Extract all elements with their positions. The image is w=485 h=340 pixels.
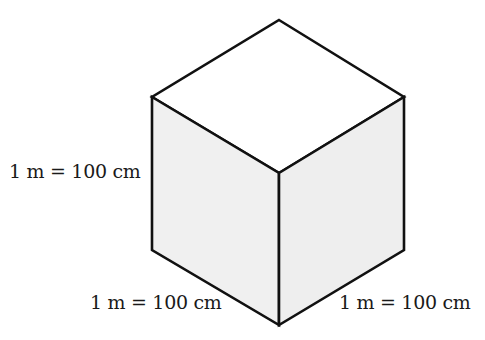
right-edge-dimension-label: 1 m = 100 cm (339, 291, 471, 313)
left-edge-dimension-label: 1 m = 100 cm (90, 291, 222, 313)
height-dimension-label: 1 m = 100 cm (9, 160, 141, 182)
